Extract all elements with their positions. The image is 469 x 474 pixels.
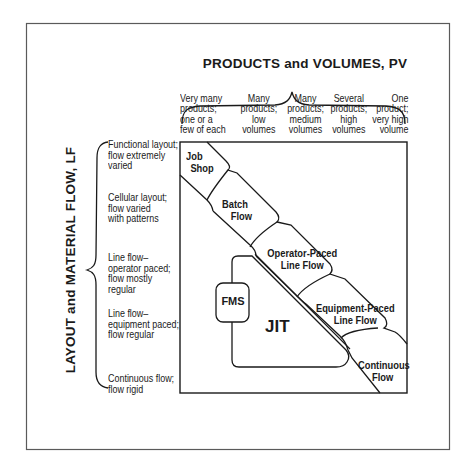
row-header-cellular-layout: Cellular layout; flow varied with patter…	[108, 193, 167, 225]
column-header-line: volumes	[233, 125, 285, 135]
y-axis-title: LAYOUT and MATERIAL FLOW, LF	[63, 147, 78, 374]
separator-equipment-continuous	[341, 328, 378, 338]
column-header-many-products-low: Many products; low volumes	[233, 94, 285, 135]
column-header-one-product: One product; very high volume	[356, 94, 408, 135]
row-header-continuous-flow: Continuous flow; flow rigid	[108, 374, 174, 395]
fms-label: FMS	[216, 295, 250, 307]
row-header-line: regular	[108, 285, 171, 296]
row-header-line: with patterns	[108, 214, 167, 225]
row-header-line: Functional layout;	[108, 140, 178, 151]
cell-label-line: Equipment-Paced	[310, 303, 401, 315]
row-header-line: flow regular	[108, 330, 179, 341]
product-process-matrix-figure: PRODUCTS and VOLUMES, PV LAYOUT and MATE…	[0, 0, 469, 474]
cell-operator-paced-line-flow: Operator-Paced Line Flow	[260, 248, 344, 271]
cell-label-line: Batch	[222, 199, 252, 211]
jit-label: JIT	[265, 317, 290, 337]
cell-label-line: Continuous	[358, 360, 407, 372]
row-header-line: Continuous flow;	[108, 374, 174, 385]
cell-equipment-paced-line-flow: Equipment-Paced Line Flow	[310, 303, 401, 326]
cell-label-line: Line Flow	[310, 315, 401, 327]
left-brace	[87, 142, 108, 388]
cell-label-line: Flow	[358, 372, 407, 384]
x-axis-title: PRODUCTS and VOLUMES, PV	[150, 56, 460, 71]
outer-frame	[27, 24, 450, 450]
column-header-line: volume	[356, 125, 408, 135]
row-header-line: varied	[108, 161, 178, 172]
row-header-line: flow rigid	[108, 385, 174, 396]
cell-label-line: Job	[186, 151, 214, 163]
cell-label-line: Shop	[186, 163, 214, 175]
row-header-line: Line flow–	[108, 253, 171, 264]
cell-label-line: Operator-Paced	[260, 248, 344, 260]
separator-job-batch	[207, 170, 228, 200]
cell-batch-flow: Batch Flow	[222, 199, 252, 222]
cell-job-shop: Job Shop	[186, 151, 214, 174]
row-header-line: Cellular layout;	[108, 193, 167, 204]
cell-label-line: Flow	[222, 211, 252, 223]
row-header-line: Line flow–	[108, 309, 179, 320]
separator-operator-equipment	[297, 274, 330, 297]
cell-label-line: Line Flow	[260, 260, 344, 272]
row-header-line-flow-equipment: Line flow– equipment paced; flow regular	[108, 309, 179, 341]
row-header-line-flow-operator: Line flow– operator paced; flow mostly r…	[108, 253, 171, 295]
separator-batch-operator	[250, 222, 277, 247]
row-header-functional-layout: Functional layout; flow extremely varied	[108, 140, 178, 172]
cell-continuous-flow: Continuous Flow	[358, 360, 407, 383]
